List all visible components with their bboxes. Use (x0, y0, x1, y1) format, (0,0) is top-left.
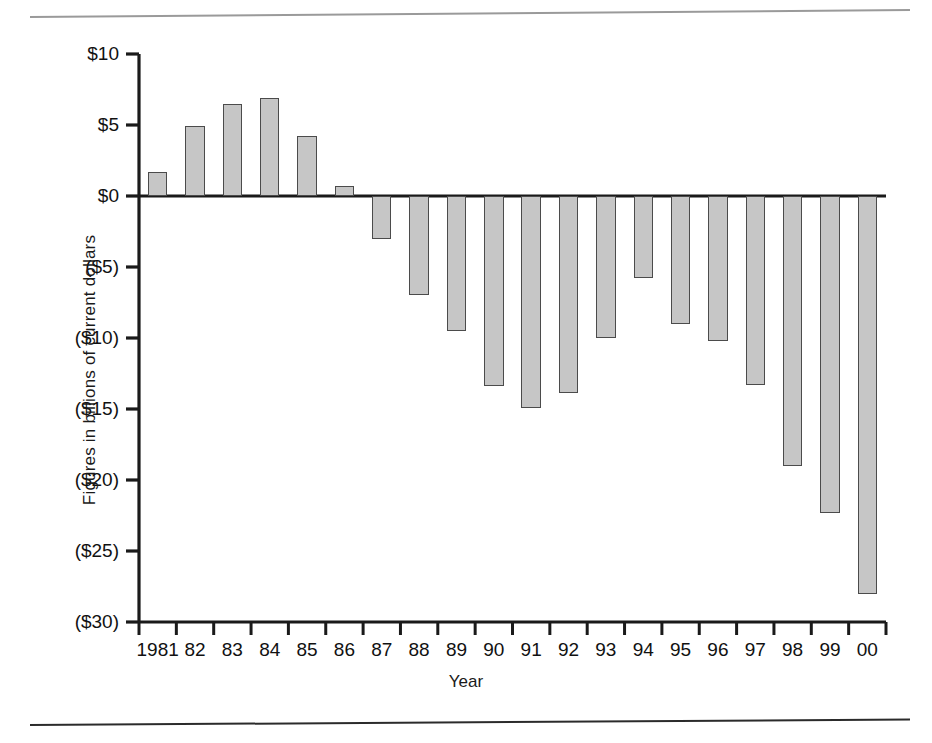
x-axis-title: Year (0, 672, 932, 692)
x-axis-tick-labels: 1981828384858687888990919293949596979899… (0, 0, 932, 743)
x-axis-tick-label: 00 (836, 639, 899, 661)
y-axis-title: Figures in billions of current dollars (80, 160, 100, 580)
bar-chart: $10$5$0($5)($10)($15)($20)($25)($30) 198… (0, 0, 932, 743)
